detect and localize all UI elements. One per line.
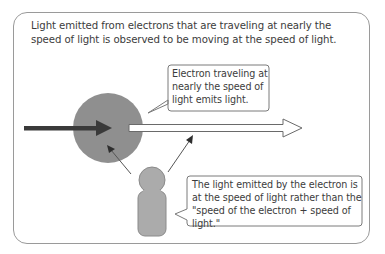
electron-bubble-text: Electron traveling at nearly the speed o… — [172, 67, 268, 106]
light-arrow — [129, 119, 302, 137]
observer-bubble-line-1: The light emitted by the electron is — [192, 178, 364, 191]
electron-bubble-line-2: nearly the speed of — [172, 80, 268, 93]
observer-sight-line-right — [168, 135, 193, 172]
electron-motion-arrow — [24, 120, 112, 136]
observer-bubble-line-2: at the speed of light rather than the — [192, 191, 364, 204]
observer-bubble-line-3: "speed of the electron + speed of light.… — [192, 204, 364, 230]
electron-bubble-line-1: Electron traveling at — [172, 67, 268, 80]
observer-person — [138, 167, 166, 236]
electron-bubble-line-3: light emits light. — [172, 93, 268, 106]
observer-bubble-text: The light emitted by the electron is at … — [192, 178, 364, 230]
